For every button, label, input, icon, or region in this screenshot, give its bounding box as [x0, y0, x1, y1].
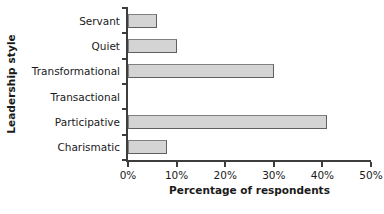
- y-tick-mark: [122, 7, 127, 9]
- x-tick-label-30: 30%: [262, 169, 285, 181]
- y-tick-mark: [122, 108, 127, 110]
- x-tick-label-20: 20%: [214, 169, 237, 181]
- y-axis-tick-labels: ServantQuietTransformationalTransactiona…: [20, 8, 125, 160]
- x-tick-mark: [370, 162, 372, 167]
- y-tick-label-participative: Participative: [20, 109, 125, 134]
- y-tick-label-transactional: Transactional: [20, 84, 125, 109]
- bar-row: [128, 8, 157, 33]
- y-tick-mark: [122, 83, 127, 85]
- x-tick-label-40: 40%: [311, 169, 334, 181]
- bar-row: [128, 59, 274, 84]
- bar-charismatic: [128, 140, 167, 154]
- y-tick-mark: [122, 134, 127, 136]
- y-tick-label-charismatic: Charismatic: [20, 135, 125, 160]
- plot-area: 0%10%20%30%40%50%: [128, 8, 371, 160]
- bar-row: [128, 33, 177, 58]
- y-axis-title-text: Leadership style: [5, 34, 17, 134]
- x-axis-title: Percentage of respondents: [128, 184, 371, 196]
- x-tick-mark: [321, 162, 323, 167]
- x-axis-line: [126, 160, 371, 162]
- x-tick-mark: [127, 162, 129, 167]
- bar-quiet: [128, 39, 177, 53]
- y-tick-label-transformational: Transformational: [20, 59, 125, 84]
- x-tick-mark: [176, 162, 178, 167]
- y-tick-mark: [122, 32, 127, 34]
- x-tick-label-10: 10%: [165, 169, 188, 181]
- x-tick-mark: [224, 162, 226, 167]
- y-axis-title: Leadership style: [0, 0, 22, 168]
- bar-chart: Leadership style ServantQuietTransformat…: [0, 0, 384, 214]
- bar-participative: [128, 115, 327, 129]
- x-tick-mark: [273, 162, 275, 167]
- x-tick-label-50: 50%: [359, 169, 382, 181]
- x-tick-label-0: 0%: [120, 169, 137, 181]
- y-tick-mark: [122, 159, 127, 161]
- bar-servant: [128, 14, 157, 28]
- bar-row: [128, 135, 167, 160]
- y-tick-label-quiet: Quiet: [20, 33, 125, 58]
- y-tick-label-servant: Servant: [20, 8, 125, 33]
- y-tick-mark: [122, 58, 127, 60]
- bar-transformational: [128, 64, 274, 78]
- bar-row: [128, 109, 327, 134]
